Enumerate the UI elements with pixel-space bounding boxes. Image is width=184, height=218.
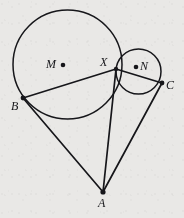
- segment-xc: [116, 69, 162, 83]
- segment-bx: [23, 69, 116, 98]
- point-c-dot: [160, 81, 165, 86]
- segment-ba: [23, 98, 103, 192]
- segment-xa: [103, 69, 116, 192]
- label-b: B: [11, 100, 18, 112]
- label-a: A: [98, 197, 105, 209]
- geometry-figure: M N X B C A: [0, 0, 184, 218]
- label-x: X: [100, 56, 107, 68]
- label-m: M: [46, 58, 56, 70]
- geometry-svg: [0, 0, 184, 218]
- point-x-dot: [114, 67, 118, 71]
- point-b-dot: [21, 96, 26, 101]
- point-a-dot: [100, 189, 105, 194]
- label-c: C: [166, 79, 174, 91]
- point-m-dot: [61, 63, 66, 68]
- segment-ca: [103, 83, 162, 192]
- point-n-dot: [134, 65, 139, 70]
- label-n: N: [140, 60, 148, 72]
